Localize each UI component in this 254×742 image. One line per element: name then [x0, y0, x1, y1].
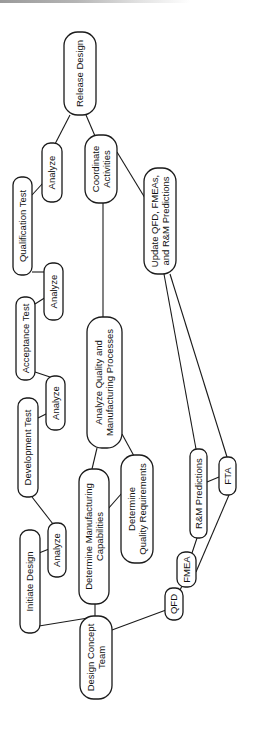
- edge-fmea-to-rmpred: [192, 538, 197, 553]
- node-analyze2: Analyze: [44, 263, 63, 320]
- edge-rmpred-to-update: [164, 274, 196, 449]
- node-label: Analyze: [50, 386, 61, 420]
- node-dct: Design ConceptTeam: [80, 616, 112, 699]
- node-detquality: DetermineQuality Requirements: [121, 455, 153, 563]
- node-fmea: FMEA: [177, 552, 196, 587]
- node-label: Qualification Test: [17, 190, 28, 263]
- node-label: Initiate Design: [24, 551, 35, 611]
- node-label: Analyze: [46, 156, 57, 190]
- node-analyze4: Analyze: [48, 523, 66, 577]
- edge-release-to-coordinate: [86, 115, 95, 136]
- node-label: FTA: [222, 467, 233, 485]
- node-development: Development Test: [18, 398, 38, 497]
- edge-analyzeQM-to-detquality: [122, 434, 134, 456]
- node-label: Analyze Quality andManufacturing Process…: [93, 329, 115, 436]
- node-update: Update QFD, FMEAs,and R&M Predictions: [144, 168, 176, 274]
- edge-analyze3-to-acceptance: [35, 372, 50, 377]
- edge-analyze1-to-release: [55, 115, 70, 144]
- node-rmpred: R&M Predictions: [190, 449, 207, 538]
- edge-coordinate-to-update: [117, 152, 145, 198]
- node-coordinate: CoordinateActivities: [85, 135, 117, 203]
- node-initiate: Initiate Design: [20, 530, 40, 633]
- node-label: Analyze: [51, 533, 62, 567]
- edge-analyze4-to-development: [32, 497, 53, 524]
- node-label: QFD: [168, 594, 179, 614]
- node-analyze1: Analyze: [42, 143, 62, 202]
- node-label: Release Design: [74, 40, 85, 107]
- edge-detmfg-to-analyzeQM: [92, 448, 97, 469]
- node-release: Release Design: [64, 32, 96, 115]
- node-detmfg: Determine ManufacturingCapabilities: [79, 469, 109, 604]
- node-fta: FTA: [219, 457, 236, 495]
- node-label: FMEA: [181, 556, 192, 583]
- node-qfd: QFD: [165, 588, 183, 620]
- node-label: Analyze: [48, 275, 59, 309]
- edge-rmpred-to-fta: [207, 477, 219, 482]
- node-layer: Release DesignAnalyzeCoordinateActivitie…: [13, 32, 236, 699]
- edge-dct-to-qfd: [112, 610, 166, 630]
- node-label: Acceptance Test: [20, 303, 31, 373]
- flow-diagram: Release DesignAnalyzeCoordinateActivitie…: [0, 0, 254, 742]
- node-label: Update QFD, FMEAs,and R&M Predictions: [149, 175, 171, 267]
- edge-fta-to-update: [170, 274, 227, 457]
- node-label: Development Test: [22, 409, 33, 485]
- node-label: CoordinateActivities: [90, 146, 112, 192]
- node-qualification: Qualification Test: [13, 177, 32, 275]
- node-analyze3: Analyze: [46, 376, 65, 430]
- node-acceptance: Acceptance Test: [16, 297, 35, 380]
- node-analyzeQM: Analyze Quality andManufacturing Process…: [87, 317, 122, 448]
- node-label: R&M Predictions: [193, 458, 204, 529]
